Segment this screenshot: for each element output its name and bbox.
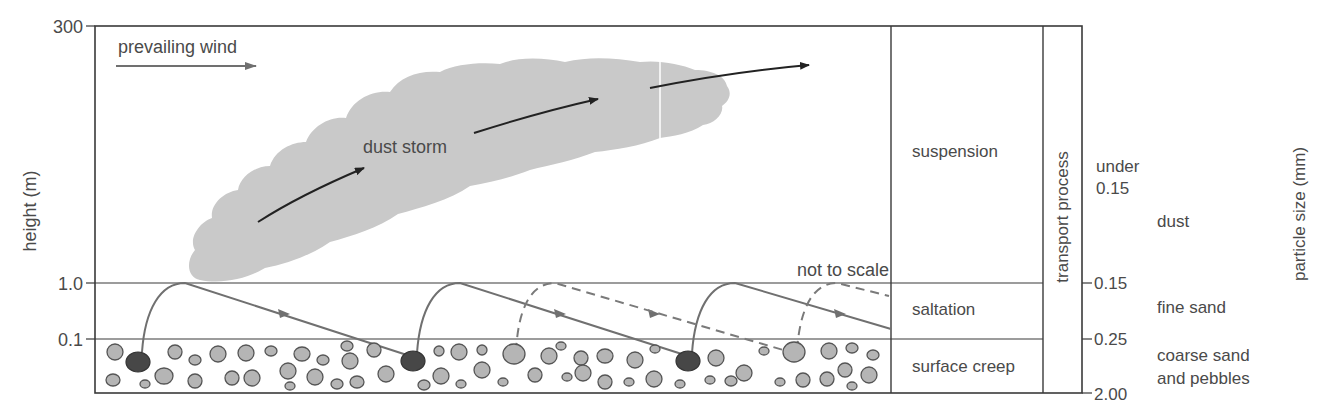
dust-storm-label: dust storm	[363, 137, 447, 157]
y-tick-300: 300	[53, 17, 83, 37]
particle-under-label: under	[1096, 157, 1140, 176]
particle-category-coarse-sand: coarse sand	[1157, 346, 1250, 365]
particle-tick-2-00: 2.00	[1094, 385, 1127, 404]
particle-tick-0-15: 0.15	[1094, 274, 1127, 293]
particle-category-fine-sand: fine sand	[1157, 298, 1226, 317]
particle-size-axis-label: particle size (mm)	[1290, 147, 1309, 281]
wind-transport-diagram: 300 1.0 0.1 height (m) prevailing wind d…	[0, 0, 1328, 413]
transport-process-header: transport process	[1053, 151, 1072, 282]
surface-pebbles	[106, 341, 879, 390]
y-axis-label: height (m)	[20, 170, 40, 251]
saltation-paths-dashed	[516, 283, 889, 352]
particle-tick-0-25: 0.25	[1094, 330, 1127, 349]
transport-row-surface-creep: surface creep	[912, 357, 1015, 376]
particle-under-value: 0.15	[1096, 179, 1129, 198]
y-tick-1-0: 1.0	[58, 274, 83, 294]
transport-row-suspension: suspension	[912, 142, 998, 161]
not-to-scale-label: not to scale	[797, 260, 889, 280]
dust-cloud	[189, 58, 730, 282]
prevailing-wind-label: prevailing wind	[118, 37, 237, 57]
y-tick-0-1: 0.1	[58, 330, 83, 350]
transport-row-saltation: saltation	[912, 300, 975, 319]
particle-category-pebbles: and pebbles	[1157, 369, 1250, 388]
particle-category-dust: dust	[1157, 212, 1189, 231]
